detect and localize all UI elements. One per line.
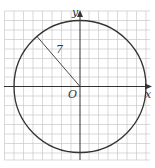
- x-axis-label: x: [145, 88, 151, 101]
- coordinate-plane: [0, 0, 155, 168]
- origin-label: O: [68, 88, 77, 101]
- radius-label: 7: [56, 43, 63, 56]
- grid-lines: [5, 11, 151, 160]
- y-axis-label: y: [72, 6, 78, 19]
